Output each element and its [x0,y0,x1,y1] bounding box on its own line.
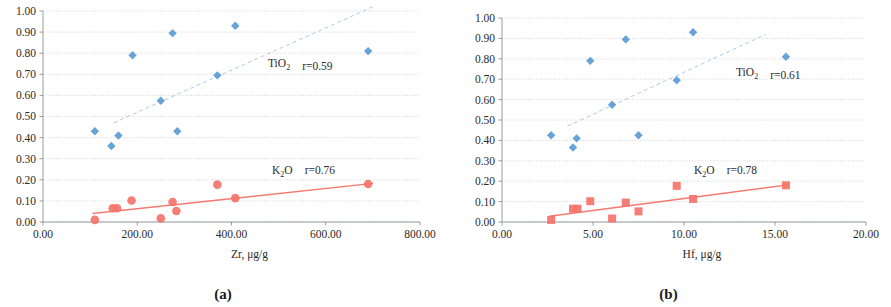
data-point-tio2 [569,143,577,151]
y-tick-label: 0.10 [16,195,36,207]
data-point-tio2 [547,131,555,139]
data-point-tio2 [572,134,580,142]
data-point-k2o [574,205,582,213]
panel-b-caption: (b) [446,286,891,303]
data-point-tio2 [91,127,99,135]
data-point-tio2 [173,127,181,135]
data-point-k2o [689,195,697,203]
series-label-k2o: K2Or=0.76 [272,164,335,179]
panel-b-plot: 0.000.100.200.300.400.500.600.700.800.90… [446,0,891,307]
data-point-tio2 [157,96,165,104]
data-point-k2o [172,207,181,216]
data-point-k2o [213,180,222,189]
trendline-tio2 [568,34,766,126]
trendline-k2o [549,185,789,217]
data-point-k2o [364,180,373,189]
data-point-k2o [127,196,136,205]
data-point-k2o [635,207,643,215]
x-tick-label: 400.00 [216,228,248,240]
data-point-k2o [782,181,790,189]
data-point-tio2 [364,47,372,55]
x-tick-label: 20.00 [853,228,879,240]
data-point-tio2 [114,131,122,139]
x-tick-label: 5.00 [583,228,603,240]
data-point-k2o [622,199,630,207]
data-point-k2o [608,215,616,223]
data-point-tio2 [689,28,697,36]
data-point-k2o [673,182,681,190]
panel-a: 0.000.100.200.300.400.500.600.700.800.90… [0,0,446,307]
data-point-tio2 [107,142,115,150]
y-tick-label: 0.00 [16,216,36,228]
y-tick-label: 0.40 [475,134,495,146]
y-tick-label: 0.80 [475,53,495,65]
y-tick-label: 0.20 [16,174,36,186]
series-label-tio2: TiO2r=0.61 [736,66,801,81]
data-point-tio2 [213,71,221,79]
y-tick-label: 1.00 [16,5,36,17]
y-tick-label: 0.50 [16,110,36,122]
data-point-k2o [91,216,100,225]
figure-scatter-pair: 0.000.100.200.300.400.500.600.700.800.90… [0,0,891,307]
x-tick-label: 600.00 [310,228,342,240]
data-point-tio2 [673,76,681,84]
x-tick-label: 15.00 [762,228,788,240]
y-tick-label: 0.20 [475,175,495,187]
trendline-tio2 [114,7,373,123]
y-tick-label: 0.10 [475,196,495,208]
data-point-k2o [547,216,555,224]
y-tick-label: 0.60 [475,94,495,106]
data-point-tio2 [586,57,594,65]
series-label-k2o: K2Or=0.78 [694,164,757,179]
y-tick-label: 0.30 [16,153,36,165]
x-tick-label: 800.00 [404,228,436,240]
y-tick-label: 0.30 [475,155,495,167]
data-point-k2o [113,204,122,213]
data-point-k2o [231,194,240,203]
data-point-tio2 [782,53,790,61]
data-point-k2o [157,214,166,223]
data-point-tio2 [231,22,239,30]
x-axis-title: Hf, μg/g [683,248,722,261]
x-tick-label: 0.00 [492,228,512,240]
y-tick-label: 0.90 [16,26,36,38]
series-label-tio2: TiO2r=0.59 [268,57,333,72]
x-axis-title: Zr, μg/g [231,248,268,261]
y-tick-label: 0.80 [16,47,36,59]
data-point-tio2 [634,131,642,139]
data-point-k2o [168,198,177,207]
y-tick-label: 0.70 [475,73,495,85]
panel-a-caption: (a) [0,286,446,303]
x-tick-label: 10.00 [671,228,697,240]
x-tick-label: 200.00 [121,228,153,240]
data-point-tio2 [128,51,136,59]
data-point-tio2 [622,35,630,43]
y-tick-label: 0.40 [16,132,36,144]
x-tick-label: 0.00 [33,228,53,240]
data-point-tio2 [168,29,176,37]
panel-b: 0.000.100.200.300.400.500.600.700.800.90… [446,0,891,307]
data-point-k2o [586,197,594,205]
data-point-tio2 [608,101,616,109]
y-tick-label: 0.50 [475,114,495,126]
y-tick-label: 0.90 [475,32,495,44]
y-tick-label: 0.60 [16,89,36,101]
panel-a-plot: 0.000.100.200.300.400.500.600.700.800.90… [0,0,446,307]
y-tick-label: 0.00 [475,216,495,228]
y-tick-label: 1.00 [475,12,495,24]
y-tick-label: 0.70 [16,68,36,80]
